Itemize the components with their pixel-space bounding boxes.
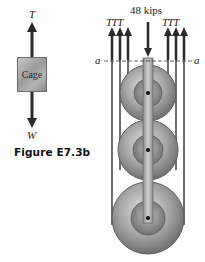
tension-arrows-left	[108, 27, 132, 60]
load-arrow-down	[144, 22, 152, 57]
section-label-left: a	[95, 54, 101, 66]
tension-arrow-up	[27, 22, 37, 57]
tension-labels-left: TTT	[106, 16, 123, 28]
tension-label-T: T	[29, 8, 35, 20]
weight-label-W: W	[27, 129, 36, 141]
cage-label: Cage	[22, 69, 43, 80]
weight-arrow-down	[27, 92, 37, 128]
center-shaft	[143, 58, 153, 223]
tension-arrows-right	[164, 27, 188, 60]
section-label-right: a	[194, 54, 200, 66]
tension-labels-right: TTT	[162, 16, 179, 28]
load-label: 48 kips	[130, 4, 162, 16]
cage-box: Cage	[17, 57, 47, 92]
figure-caption: Figure E7.3b	[14, 146, 90, 158]
